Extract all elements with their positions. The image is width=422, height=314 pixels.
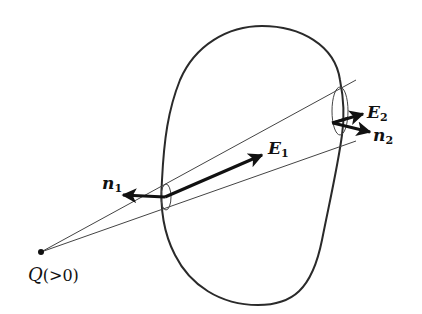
n2-label: n2 [373, 127, 393, 146]
E1-label: E1 [268, 140, 289, 159]
charge-point [38, 249, 44, 255]
cone-upper-line [41, 80, 356, 252]
closed-surface [161, 26, 343, 305]
n1-label: n1 [102, 175, 122, 194]
charge-label: Q(>0) [28, 266, 79, 284]
area-patch-2 [332, 87, 348, 135]
E2-label: E2 [367, 104, 388, 123]
charge-condition: (>0) [43, 266, 79, 285]
cone-lower-line [41, 141, 356, 252]
n1-arrow [123, 195, 165, 197]
n2-arrow [333, 123, 370, 132]
